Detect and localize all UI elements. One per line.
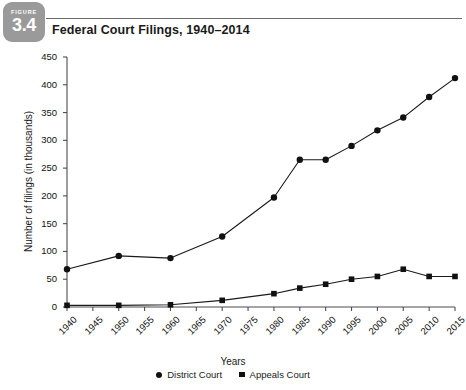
data-point-district-court	[116, 253, 122, 259]
legend-item-district-court: District Court	[156, 369, 222, 380]
data-point-district-court	[64, 266, 70, 272]
data-point-district-court	[271, 194, 277, 200]
data-point-appeals-court	[323, 281, 329, 287]
data-point-appeals-court	[64, 303, 70, 309]
legend-label-appeals-court: Appeals Court	[250, 369, 310, 380]
data-point-appeals-court	[116, 303, 122, 309]
x-axis-title: Years	[0, 356, 466, 367]
series-line-appeals-court	[67, 269, 455, 305]
data-point-appeals-court	[168, 302, 174, 308]
legend-label-district-court: District Court	[167, 369, 222, 380]
y-tick-label: 450	[23, 51, 57, 62]
y-tick-label: 400	[23, 79, 57, 90]
y-tick-label: 50	[23, 273, 57, 284]
figure-root: FIGURE 3.4 Federal Court Filings, 1940–2…	[0, 0, 466, 390]
chart-series	[64, 75, 458, 308]
data-point-appeals-court	[349, 276, 355, 282]
data-point-appeals-court	[271, 291, 277, 297]
data-point-district-court	[400, 114, 406, 120]
data-point-appeals-court	[375, 274, 381, 280]
chart-axes	[63, 57, 455, 311]
data-point-appeals-court	[426, 274, 432, 280]
square-marker-icon	[239, 372, 245, 378]
data-point-district-court	[167, 255, 173, 261]
legend-item-appeals-court: Appeals Court	[239, 369, 310, 380]
data-point-appeals-court	[219, 298, 225, 304]
chart-plot-area: 050100150200250300350400450 194019451950…	[0, 0, 466, 390]
y-tick-label: 0	[23, 301, 57, 312]
series-line-district-court	[67, 78, 455, 269]
data-point-district-court	[348, 143, 354, 149]
data-point-appeals-court	[452, 274, 458, 280]
data-point-district-court	[426, 94, 432, 100]
circle-marker-icon	[156, 372, 162, 378]
data-point-appeals-court	[400, 266, 406, 272]
data-point-appeals-court	[297, 285, 303, 291]
data-point-district-court	[374, 127, 380, 133]
chart-legend: District Court Appeals Court	[0, 369, 466, 380]
data-point-district-court	[297, 157, 303, 163]
data-point-district-court	[219, 233, 225, 239]
data-point-district-court	[322, 157, 328, 163]
y-axis-title: Number of filings (in thousands)	[23, 102, 34, 262]
data-point-district-court	[452, 75, 458, 81]
